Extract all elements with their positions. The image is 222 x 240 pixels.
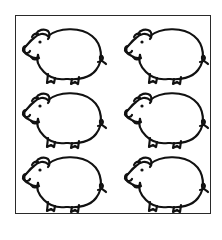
pig-drawing	[18, 86, 108, 150]
pig-drawing	[120, 86, 210, 150]
pig-drawing	[120, 22, 210, 86]
pig-drawing	[18, 22, 108, 86]
pig-drawing	[120, 150, 210, 214]
pig-drawing	[18, 150, 108, 214]
